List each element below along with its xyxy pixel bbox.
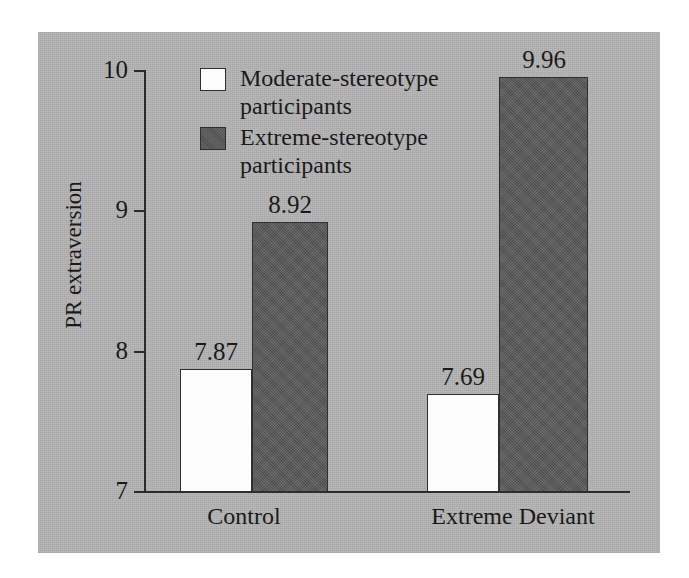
bar-value-control-extreme: 8.92 [236,192,344,217]
y-axis-line [144,70,146,493]
plot-area: 10 9 8 7 PR extraversion 7.87 8.92 [38,32,660,553]
bar-control-moderate[interactable] [180,369,252,492]
legend-label-extreme-line2: participants [240,151,428,179]
legend-label-extreme-line1: Extreme-stereotype [240,123,428,151]
legend-label-moderate: Moderate-stereotype participants [240,64,439,121]
y-axis-title: PR extraversion [61,155,87,355]
chart-legend: Moderate-stereotype participants Extreme… [200,64,439,181]
dark-square-swatch-icon [200,127,226,150]
legend-label-moderate-line1: Moderate-stereotype [240,64,439,92]
y-tick-8 [134,351,146,353]
bar-value-deviant-extreme: 9.96 [490,47,598,72]
x-category-label-extreme-deviant: Extreme Deviant [413,504,613,529]
y-tick-10 [134,70,146,72]
legend-label-moderate-line2: participants [240,92,439,120]
light-square-swatch-icon [200,68,226,91]
legend-item-extreme[interactable]: Extreme-stereotype participants [200,123,439,180]
bar-control-extreme[interactable] [252,222,328,492]
y-tick-label-7: 7 [70,478,128,503]
x-category-label-control: Control [154,504,334,529]
bar-chart-figure: 10 9 8 7 PR extraversion 7.87 8.92 [0,0,689,578]
bar-deviant-moderate[interactable] [427,394,499,492]
y-tick-label-10: 10 [70,57,128,82]
chart-panel: 10 9 8 7 PR extraversion 7.87 8.92 [38,32,660,553]
legend-label-extreme: Extreme-stereotype participants [240,123,428,180]
y-tick-9 [134,210,146,212]
y-tick-7 [134,491,146,493]
bar-deviant-extreme[interactable] [499,77,588,492]
legend-item-moderate[interactable]: Moderate-stereotype participants [200,64,439,121]
